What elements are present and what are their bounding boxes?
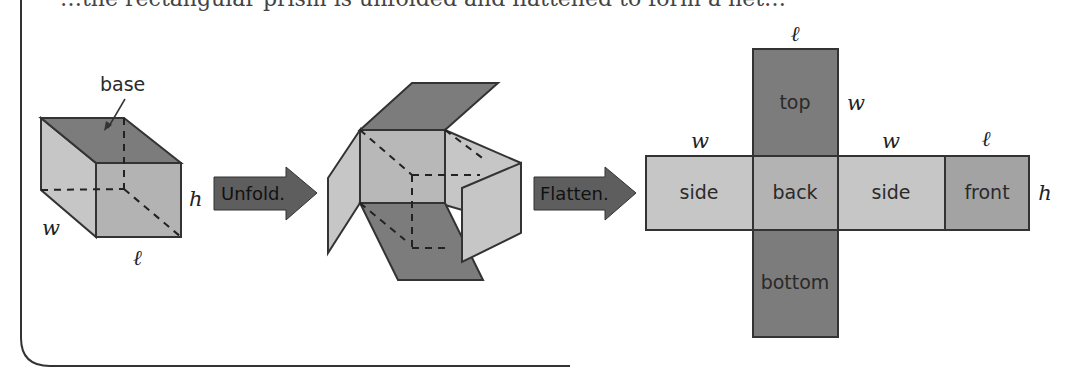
net-top-label: top (779, 91, 810, 113)
clipped-header-text: …the rectangular prism is unfolded and f… (60, 0, 786, 11)
prism-net-diagram: base w h ℓ Unfold. (0, 0, 1065, 369)
net-side-right-label: side (872, 181, 911, 203)
rectangular-prism: base w h ℓ (41, 73, 203, 270)
unfold-top-flap (360, 83, 498, 130)
unfold-arrow-label: Unfold. (221, 183, 285, 204)
prism-width-label: w (42, 216, 60, 240)
unfolding-prism (328, 83, 521, 280)
net-bottom-label: bottom (761, 271, 830, 293)
net-side-right-width-label: w (882, 129, 900, 153)
net-front-width-label: ℓ (982, 127, 991, 151)
net-back-label: back (772, 181, 817, 203)
net-side-left-label: side (680, 181, 719, 203)
net-side-left-width-label: w (691, 129, 709, 153)
base-label: base (100, 73, 145, 95)
net-row-height-label: h (1038, 181, 1052, 205)
unfold-arrow: Unfold. (214, 167, 317, 220)
flatten-arrow: Flatten. (534, 167, 636, 220)
unfold-left-flap (328, 130, 360, 253)
diagram-stage: …the rectangular prism is unfolded and f… (0, 0, 1065, 369)
net-top-height-label: w (847, 91, 865, 115)
prism-length-label: ℓ (133, 246, 142, 270)
net-top-width-label: ℓ (791, 22, 800, 46)
net-front-label: front (964, 181, 1009, 203)
flatten-arrow-label: Flatten. (540, 183, 609, 204)
prism-net: top side back side front bottom ℓ w w w … (646, 22, 1052, 337)
prism-height-label: h (189, 187, 203, 211)
